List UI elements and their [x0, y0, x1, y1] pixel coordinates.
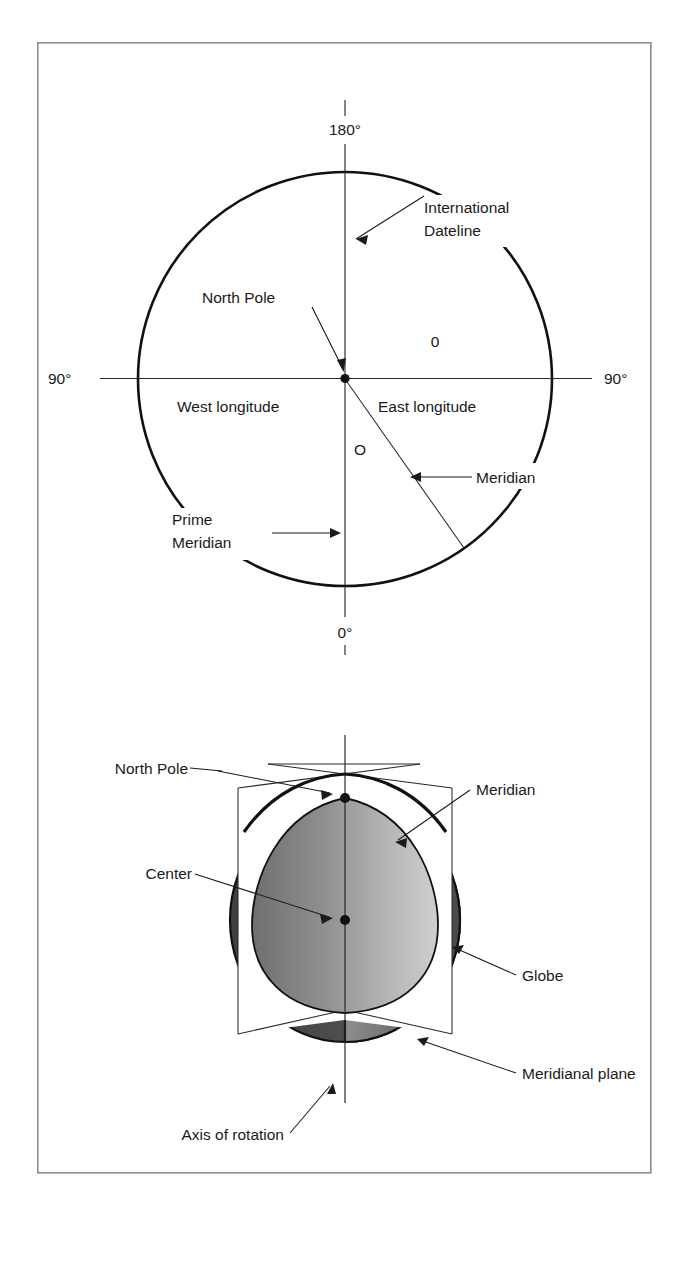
figure-root: 180° 0° 90° 90° International Dateline N… [0, 0, 691, 1261]
label-axis-of-rotation: Axis of rotation [181, 1126, 284, 1143]
label-center-globe: Center [145, 865, 192, 882]
figure-canvas: 180° 0° 90° 90° International Dateline N… [0, 0, 691, 1261]
label-meridian: Meridian [476, 469, 535, 486]
label-prime-meridian-line2: Meridian [172, 534, 231, 551]
label-90-degrees-east: 90° [604, 370, 627, 387]
label-east-longitude: East longitude [378, 398, 476, 415]
label-180-degrees: 180° [329, 121, 361, 138]
label-north-pole: North Pole [202, 289, 275, 306]
label-90-degrees-west: 90° [48, 370, 71, 387]
label-international-dateline-line1: International [424, 199, 509, 216]
label-globe: Globe [522, 967, 563, 984]
label-international-dateline-line2: Dateline [424, 222, 481, 239]
center-dot-globe [340, 915, 350, 925]
label-angle-zero: 0 [431, 333, 440, 350]
label-west-longitude: West longitude [177, 398, 279, 415]
label-origin-o: O [354, 441, 366, 458]
label-meridianal-plane: Meridianal plane [522, 1065, 636, 1082]
label-meridian-globe: Meridian [476, 781, 535, 798]
north-pole-dot-globe [340, 793, 350, 803]
label-north-pole-globe: North Pole [115, 760, 188, 777]
label-0-degrees: 0° [338, 624, 353, 641]
label-prime-meridian-line1: Prime [172, 511, 212, 528]
north-pole-dot [340, 374, 349, 383]
